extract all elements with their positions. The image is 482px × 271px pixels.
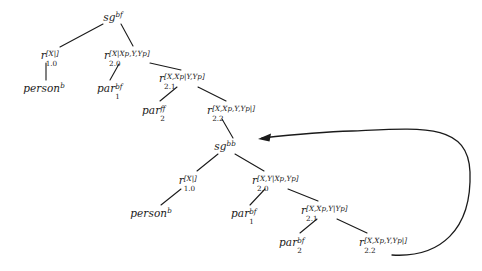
node-superscript: ff: [160, 105, 165, 112]
tree-edge: [222, 119, 233, 138]
tree-node-r20-lower: r2.0[X,Y|Xp,Yp]: [252, 175, 300, 186]
tree-node-r21-lower: r2.1[X,Xp,Y|Yp]: [301, 205, 349, 216]
node-superscript: [X,Xp,Y|Yp]: [306, 205, 348, 212]
tree-node-sg-bf: sgbf: [103, 11, 123, 22]
node-subscript: 2.0: [257, 185, 268, 192]
tree-node-r22-upper: r2.2[X,Xp,Y,Yp|]: [207, 105, 259, 116]
tree-edge: [161, 189, 181, 205]
node-superscript: b: [60, 81, 65, 90]
tree-edge: [60, 24, 103, 47]
node-superscript: bb: [227, 139, 236, 148]
node-superscript: [X,Xp,Y,Yp|]: [364, 237, 407, 244]
node-superscript: bf: [249, 208, 256, 215]
tree-edge: [197, 154, 218, 171]
node-base-symbol: sg: [103, 11, 115, 23]
node-superscript: bf: [297, 237, 304, 244]
node-subscript: 1: [115, 93, 120, 100]
tree-edge: [121, 24, 133, 46]
node-subscript: 2.1: [164, 83, 175, 90]
node-subscript: 1.0: [46, 60, 57, 67]
node-base-symbol: par: [97, 82, 115, 94]
tree-node-par1-lower: par1bf: [231, 208, 257, 219]
tree-node-r10-upper: r1.0[X|]: [41, 50, 62, 61]
node-subscript: 2: [297, 247, 302, 254]
node-base-symbol: par: [142, 104, 160, 116]
tree-edges: [46, 24, 367, 233]
tree-node-sg-bb: sgbb: [214, 140, 236, 151]
tree-edge: [198, 87, 226, 101]
node-base-symbol: sg: [214, 140, 226, 152]
node-superscript: [X,Xp|Y,Yp]: [164, 73, 205, 80]
tree-node-r20-upper: r2.0[X|Xp,Y,Yp]: [104, 50, 152, 61]
node-superscript: [X,Y|Xp,Yp]: [257, 175, 299, 182]
node-subscript: 2.1: [306, 215, 317, 222]
node-superscript: [X,Xp,Y,Yp|]: [212, 105, 255, 112]
node-subscript: 2: [160, 115, 165, 122]
node-superscript: [X|]: [46, 50, 59, 57]
node-base-symbol: par: [231, 207, 249, 219]
node-superscript: b: [167, 206, 172, 215]
node-superscript: [X|Xp,Y,Yp]: [109, 50, 150, 57]
node-superscript: bf: [116, 10, 123, 19]
tree-node-par2-lower: par2bf: [279, 237, 305, 248]
node-subscript: 2.2: [212, 115, 223, 122]
tree-edge: [235, 154, 264, 171]
tree-node-person-upper: personb: [23, 82, 65, 93]
tree-edge: [288, 189, 318, 201]
edge-layer: [0, 0, 482, 271]
tree-edge: [337, 219, 367, 233]
node-subscript: 2.0: [109, 60, 120, 67]
recursive-call-arrowhead: [258, 134, 271, 142]
node-base-symbol: person: [23, 82, 60, 94]
node-base-symbol: par: [279, 236, 297, 248]
proof-tree-diagram: sgbfr1.0[X|]r2.0[X|Xp,Y,Yp]personbpar1bf…: [0, 0, 482, 271]
node-subscript: 1: [249, 218, 254, 225]
node-subscript: 2.2: [364, 247, 375, 254]
node-subscript: 1.0: [184, 185, 195, 192]
tree-node-par2-upper: par2ff: [142, 105, 168, 116]
tree-node-r21-upper: r2.1[X,Xp|Y,Yp]: [159, 73, 207, 84]
tree-node-person-lower: personb: [130, 207, 172, 218]
tree-node-r22-lower: r2.2[X,Xp,Y,Yp|]: [359, 237, 411, 248]
tree-node-r10-lower: r1.0[X|]: [179, 175, 200, 186]
tree-edge: [150, 63, 181, 70]
node-superscript: bf: [115, 83, 122, 90]
node-superscript: [X|]: [184, 175, 197, 182]
tree-node-par1-upper: par1bf: [97, 83, 123, 94]
node-base-symbol: person: [130, 207, 167, 219]
